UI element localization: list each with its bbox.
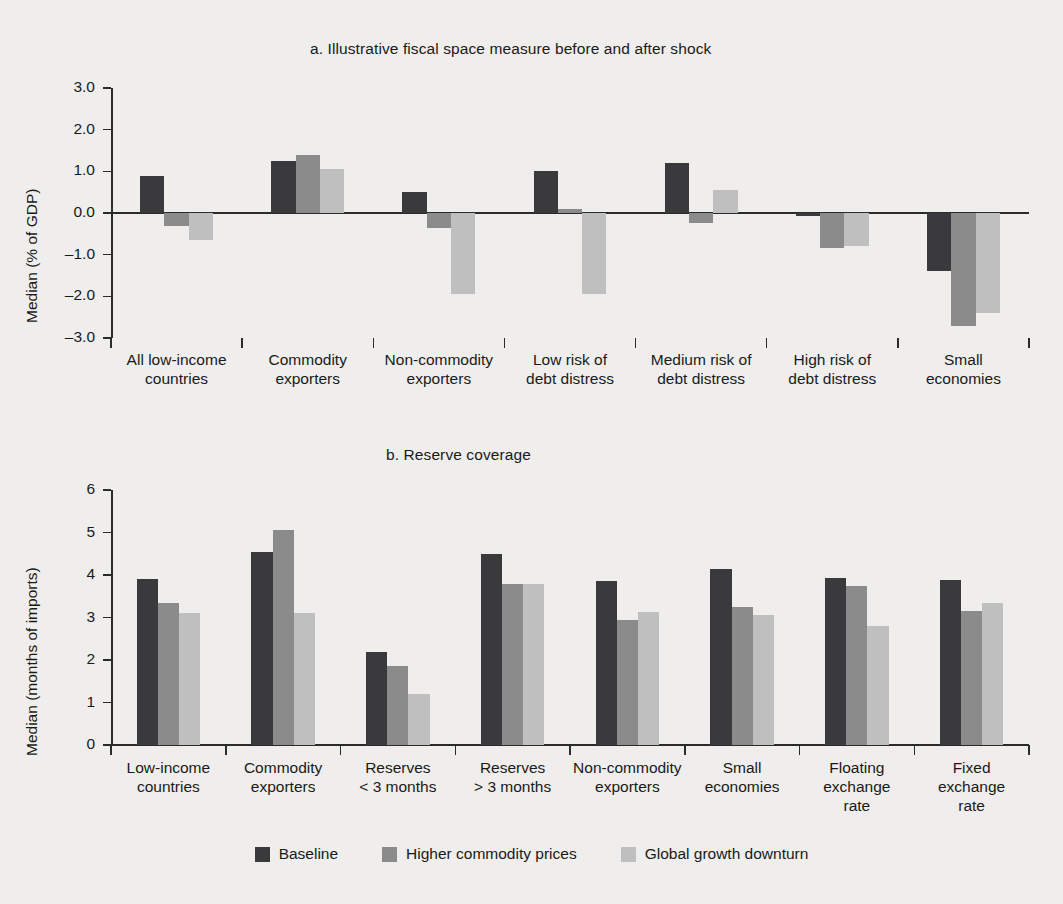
bar [844,213,868,246]
bar [179,613,200,745]
bar [408,694,429,745]
legend-color-swatch [255,847,270,862]
y-tick-label: 1.0 [33,161,95,179]
y-axis-line [111,490,113,745]
y-tick-label: 5 [33,523,95,541]
bar [296,155,320,213]
legend-label: Higher commodity prices [406,845,577,863]
legend-label: Baseline [279,845,338,863]
x-tick-mark [504,338,506,348]
bar [961,611,982,745]
x-tick-mark [569,745,571,755]
bar [596,581,617,745]
y-axis-title: Median (months of imports) [23,567,41,756]
x-axis-category-label: Smalleconomies [882,350,1045,388]
chart-legend: BaselineHigher commodity pricesGlobal gr… [0,845,1063,863]
y-tick-mark [103,702,111,704]
legend-color-swatch [382,847,397,862]
bar [940,580,961,745]
bar [732,607,753,745]
y-tick-mark [103,212,111,214]
y-tick-label: –2.0 [33,286,95,304]
bar [867,626,888,745]
bar [251,552,272,745]
bar [189,213,213,240]
bar [638,612,659,745]
figure-container: a. Illustrative fiscal space measure bef… [0,0,1063,904]
bar [582,213,606,294]
bar [427,213,451,228]
y-tick-label: 2.0 [33,120,95,138]
bar [523,584,544,746]
bar [366,652,387,746]
panel-b-chart: 6543210Median (months of imports)Low-inc… [111,490,1029,745]
bar [820,213,844,248]
y-tick-label: 1 [33,693,95,711]
x-tick-mark [241,338,243,348]
bar [271,161,295,213]
y-tick-label: –1.0 [33,245,95,263]
bar [387,666,408,745]
panel-a-title: a. Illustrative fiscal space measure bef… [310,40,711,58]
bar [558,209,582,213]
bar [753,615,774,745]
y-tick-mark [103,617,111,619]
x-tick-mark [914,745,916,755]
bar [689,213,713,223]
bar [402,192,426,213]
y-tick-mark [103,532,111,534]
legend-item: Higher commodity prices [382,845,577,863]
x-tick-mark [225,745,227,755]
y-tick-label: 6 [33,480,95,498]
y-tick-mark [103,171,111,173]
bar [825,578,846,745]
y-tick-mark [103,296,111,298]
bar [140,176,164,214]
x-tick-mark [455,745,457,755]
y-tick-label: 0 [33,735,95,753]
bar [137,579,158,745]
x-tick-mark [635,338,637,348]
bar [710,569,731,745]
bar [294,613,315,745]
x-tick-mark [373,338,375,348]
bar [481,554,502,745]
x-tick-mark [799,745,801,755]
x-tick-mark [766,338,768,348]
x-tick-mark [110,745,112,755]
x-tick-mark [110,338,112,348]
bar [320,169,344,213]
bar [451,213,475,294]
bar [846,586,867,745]
y-tick-mark [103,659,111,661]
y-tick-mark [103,87,111,89]
y-tick-label: –3.0 [33,328,95,346]
y-tick-mark [103,489,111,491]
bar [164,213,188,226]
bar [665,163,689,213]
y-tick-mark [103,574,111,576]
legend-label: Global growth downturn [645,845,809,863]
bar [927,213,951,271]
panel-b-title: b. Reserve coverage [386,446,531,464]
bar [982,603,1003,745]
y-tick-label: 3 [33,608,95,626]
bar [158,603,179,745]
y-axis-title: Median (% of GDP) [23,189,41,323]
x-axis-category-label: Fixedexchangerate [900,758,1042,815]
bar [796,213,820,216]
x-tick-mark [340,745,342,755]
panel-a-chart: 3.02.01.00.0–1.0–2.0–3.0Median (% of GDP… [111,88,1029,338]
bar [951,213,975,326]
y-tick-label: 2 [33,650,95,668]
bar [976,213,1000,313]
x-tick-mark [897,338,899,348]
legend-color-swatch [621,847,636,862]
y-tick-label: 0.0 [33,203,95,221]
y-tick-label: 3.0 [33,78,95,96]
legend-item: Global growth downturn [621,845,809,863]
legend-item: Baseline [255,845,338,863]
bar [713,190,737,213]
y-tick-mark [103,254,111,256]
x-tick-mark [684,745,686,755]
